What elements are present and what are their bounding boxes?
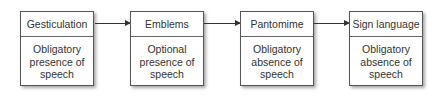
box-sign-language: Sign language Obligatory absence of spee… (349, 11, 423, 86)
arrow-right-icon (95, 23, 130, 24)
box-emblems: Emblems Optional presence of speech (130, 11, 204, 86)
box-title: Pantomime (241, 12, 313, 37)
box-description: Obligatory absence of speech (350, 37, 422, 87)
box-title: Gesticulation (21, 12, 93, 37)
box-description: Obligatory absence of speech (241, 37, 313, 87)
arrow-right-icon (314, 23, 349, 24)
box-title: Sign language (350, 12, 422, 37)
box-description: Obligatory presence of speech (21, 37, 93, 87)
box-pantomime: Pantomime Obligatory absence of speech (240, 11, 314, 86)
box-description: Optional presence of speech (131, 37, 203, 87)
arrow-right-icon (204, 23, 240, 24)
box-title: Emblems (131, 12, 203, 37)
box-gesticulation: Gesticulation Obligatory presence of spe… (20, 11, 94, 86)
